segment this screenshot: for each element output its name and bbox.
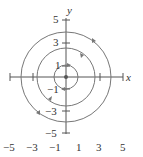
y-tick-label: −5 (45, 128, 57, 139)
x-tick-label: 5 (120, 142, 126, 153)
x-axis-label: x (126, 72, 131, 83)
x-tick-label: −3 (26, 142, 38, 153)
y-axis-label: y (67, 5, 72, 16)
phase-portrait (0, 0, 143, 157)
y-tick-label: 5 (53, 14, 59, 25)
y-tick-label: 3 (53, 37, 59, 48)
x-tick-label: 1 (76, 142, 82, 153)
y-tick-label: 1 (55, 60, 61, 71)
equilibrium-point (64, 75, 68, 79)
x-tick-label: 3 (96, 142, 102, 153)
arrow-icon (61, 87, 65, 91)
y-tick-label: −3 (45, 106, 57, 117)
y-tick-label: −1 (47, 84, 59, 95)
x-tick-label: −1 (49, 142, 61, 153)
x-tick-label: −5 (3, 142, 15, 153)
